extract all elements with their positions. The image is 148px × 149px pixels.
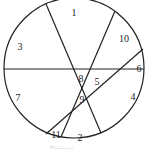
region-label-10: 10 [119, 33, 129, 44]
chord-steep-down-left [61, 11, 115, 137]
region-label-4: 4 [131, 91, 136, 102]
region-label-7: 7 [16, 92, 21, 103]
chord-shallow-diagonal [46, 49, 143, 134]
region-label-2: 2 [78, 132, 83, 143]
figure-caption: Figure [50, 144, 74, 149]
region-label-1: 1 [72, 7, 77, 18]
region-label-6: 6 [137, 63, 142, 74]
region-label-11: 11 [51, 129, 61, 140]
region-label-9: 9 [80, 94, 85, 105]
region-labels: 1234567891011 [16, 7, 142, 143]
chords [4, 4, 144, 137]
region-label-5: 5 [95, 76, 100, 87]
region-label-3: 3 [18, 41, 23, 52]
circle-regions-diagram: 1234567891011 Figure [0, 0, 148, 149]
region-label-8: 8 [79, 73, 84, 84]
